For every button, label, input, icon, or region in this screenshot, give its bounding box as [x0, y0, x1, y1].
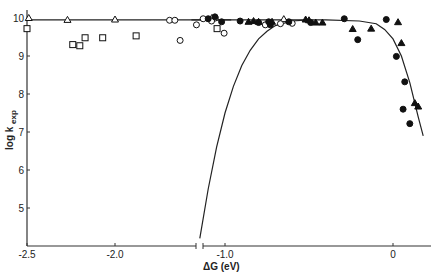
triangle-filled-marker — [349, 26, 356, 32]
triangle-filled-marker — [398, 40, 405, 46]
fitted-curve-2 — [200, 20, 309, 239]
y-tick-label: 10 — [13, 13, 25, 24]
y-axis-title: log k exp — [4, 110, 18, 150]
square-open-marker — [100, 35, 106, 41]
y-tick-label: 9 — [18, 51, 24, 62]
circle-open-marker — [277, 21, 283, 27]
circle-filled-marker — [341, 16, 347, 22]
square-open-marker — [70, 42, 76, 48]
circle-filled-marker — [407, 121, 413, 127]
chart-canvas: 1098765-2.5-2.0-1.00 ΔG (eV) log k exp — [0, 0, 435, 276]
circle-filled-marker — [402, 79, 408, 85]
x-tick-label: -2.0 — [106, 249, 124, 260]
square-open-marker — [133, 33, 139, 39]
circle-filled-marker — [355, 37, 361, 43]
y-tick-label: 7 — [18, 127, 24, 138]
y-axis-title-main: log k — [4, 126, 15, 150]
circle-open-marker — [221, 30, 227, 36]
circle-filled-marker — [205, 16, 211, 22]
fitted-curve-1 — [191, 20, 423, 136]
circle-filled-marker — [383, 17, 389, 23]
x-tick-label: 0 — [390, 249, 396, 260]
circle-open-marker — [177, 37, 183, 43]
y-tick-label: 6 — [18, 165, 24, 176]
circle-filled-marker — [219, 19, 225, 25]
circle-filled-marker — [237, 18, 243, 24]
circle-filled-marker — [400, 106, 406, 112]
triangle-open-marker — [112, 16, 119, 22]
x-axis-title: ΔG (eV) — [203, 261, 240, 272]
square-open-marker — [214, 26, 220, 32]
square-open-marker — [77, 43, 83, 49]
square-open-marker — [82, 35, 88, 41]
square-open-marker — [24, 26, 30, 32]
fitted-curves — [27, 20, 423, 239]
axis-labels: ΔG (eV) log k exp — [4, 110, 240, 272]
circle-open-marker — [193, 22, 199, 28]
circle-filled-marker — [393, 53, 399, 59]
circle-filled-marker — [286, 19, 292, 25]
x-tick-label: -1.0 — [216, 249, 234, 260]
triangle-open-marker — [25, 15, 32, 21]
x-tick-label: -2.5 — [18, 249, 36, 260]
y-axis-title-subscript: exp — [9, 110, 18, 124]
triangle-filled-marker — [368, 25, 375, 31]
triangle-filled-marker — [395, 19, 402, 25]
circle-filled-marker — [212, 14, 218, 20]
y-tick-label: 8 — [18, 89, 24, 100]
y-tick-label: 5 — [18, 203, 24, 214]
data-points — [24, 14, 422, 127]
circle-open-marker — [172, 17, 178, 23]
